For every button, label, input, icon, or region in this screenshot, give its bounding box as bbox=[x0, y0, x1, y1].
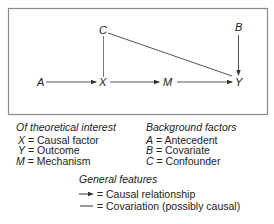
legend-general-features: General features = Causal relationship =… bbox=[79, 174, 240, 212]
legend-item-causal: = Causal relationship bbox=[79, 188, 240, 200]
arrow-icon bbox=[79, 190, 94, 198]
legend-item-m: M = Mechanism bbox=[16, 156, 116, 167]
node-y: Y bbox=[235, 76, 243, 88]
node-x: X bbox=[98, 76, 107, 88]
line-icon bbox=[79, 202, 94, 210]
node-b: B bbox=[235, 21, 242, 33]
edge-c-y-covariation bbox=[108, 33, 232, 76]
legend-heading: General features bbox=[79, 174, 240, 185]
node-c: C bbox=[99, 24, 107, 36]
legend-theoretical-interest: Of theoretical interest X = Causal facto… bbox=[16, 122, 116, 166]
diagram-frame bbox=[9, 9, 268, 115]
legend-heading: Background factors bbox=[146, 122, 236, 133]
legend-background-factors: Background factors A = Antecedent B = Co… bbox=[146, 122, 236, 166]
legend-item-covariation: = Covariation (possibly causal) bbox=[79, 200, 240, 212]
legend-heading: Of theoretical interest bbox=[16, 122, 116, 133]
legend-item-c: C = Confounder bbox=[146, 156, 236, 167]
node-m: M bbox=[163, 76, 173, 88]
causal-diagram: A X M Y C B bbox=[0, 0, 274, 120]
node-a: A bbox=[36, 76, 44, 88]
